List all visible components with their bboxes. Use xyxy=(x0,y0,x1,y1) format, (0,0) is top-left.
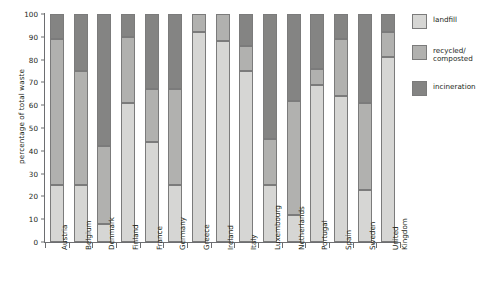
y-axis-tick: 10 xyxy=(29,215,45,224)
bar-segment-incineration xyxy=(263,14,277,139)
x-axis-tick xyxy=(282,243,283,248)
x-axis-tick xyxy=(116,243,117,248)
bar-segment-recycled-composted xyxy=(145,89,159,141)
y-axis-tick-mark xyxy=(41,196,45,197)
y-axis-tick-mark xyxy=(41,150,45,151)
legend-item-recycled[interactable]: recycled/ composted xyxy=(412,45,473,64)
x-axis-tick xyxy=(45,243,46,248)
x-axis-label-austria: Austria xyxy=(61,170,70,250)
x-axis-label-united-kingdom: United Kingdom xyxy=(392,170,409,250)
bar-segment-incineration xyxy=(74,14,88,71)
bar-segment-recycled-composted xyxy=(192,14,206,32)
y-axis-tick: 0 xyxy=(33,238,45,247)
x-axis-tick xyxy=(140,243,141,248)
y-axis-tick-label: 100 xyxy=(24,10,38,19)
y-axis-tick: 30 xyxy=(29,169,45,178)
y-axis-tick: 90 xyxy=(29,32,45,41)
x-axis-label-finland: Finland xyxy=(132,170,141,250)
legend-label-landfill: landfill xyxy=(433,14,457,24)
bar-segment-incineration xyxy=(50,14,64,39)
x-axis-tick xyxy=(376,243,377,248)
y-axis-tick-mark xyxy=(41,173,45,174)
legend-item-incin[interactable]: incineration xyxy=(412,81,476,96)
y-axis-tick: 60 xyxy=(29,101,45,110)
y-axis-tick: 20 xyxy=(29,192,45,201)
y-axis-tick-label: 10 xyxy=(29,215,38,224)
bar-segment-incineration xyxy=(145,14,159,89)
legend-swatch-incin xyxy=(412,81,427,96)
legend-swatch-recycled xyxy=(412,45,427,60)
x-axis-label-greece: Greece xyxy=(203,170,212,250)
x-axis-tick xyxy=(211,243,212,248)
y-axis-tick-label: 60 xyxy=(29,101,38,110)
y-axis-tick-label: 50 xyxy=(29,124,38,133)
y-axis-tick-label: 40 xyxy=(29,146,38,155)
y-axis-tick-mark xyxy=(41,36,45,37)
bar-segment-recycled-composted xyxy=(50,39,64,185)
bar-segment-recycled-composted xyxy=(334,39,348,96)
y-axis-tick-label: 30 xyxy=(29,169,38,178)
x-axis-tick xyxy=(163,243,164,248)
x-axis-tick xyxy=(69,243,70,248)
bar-segment-recycled-composted xyxy=(216,14,230,41)
y-axis-tick-label: 90 xyxy=(29,32,38,41)
bar-segment-recycled-composted xyxy=(74,71,88,185)
x-axis-tick xyxy=(353,243,354,248)
x-axis-label-italy: Italy xyxy=(250,170,259,250)
x-axis-label-ireland: Ireland xyxy=(227,170,236,250)
y-axis-tick-mark xyxy=(41,59,45,60)
x-axis-tick xyxy=(400,243,401,248)
bar-segment-incineration xyxy=(358,14,372,103)
x-axis-tick xyxy=(187,243,188,248)
x-axis-label-netherlands: Netherlands xyxy=(298,170,307,250)
y-axis-tick-mark xyxy=(41,105,45,106)
bar-segment-incineration xyxy=(287,14,301,101)
bar-segment-recycled-composted xyxy=(121,37,135,103)
x-axis-label-denmark: Denmark xyxy=(108,170,117,250)
bar-segment-incineration xyxy=(97,14,111,146)
y-axis-tick-label: 20 xyxy=(29,192,38,201)
x-axis-label-sweden: Sweden xyxy=(369,170,378,250)
legend-label-recycled: recycled/ composted xyxy=(433,45,473,64)
legend-label-incin: incineration xyxy=(433,81,476,91)
y-axis-tick: 70 xyxy=(29,78,45,87)
x-axis-label-spain: Spain xyxy=(345,170,354,250)
legend-item-landfill[interactable]: landfill xyxy=(412,14,457,29)
x-axis-tick xyxy=(258,243,259,248)
waste-treatment-chart: percentage of total waste 01020304050607… xyxy=(0,0,493,306)
x-axis-label-belgium: Belgium xyxy=(85,170,94,250)
y-axis-tick-label: 70 xyxy=(29,78,38,87)
x-axis-tick xyxy=(305,243,306,248)
y-axis-tick: 80 xyxy=(29,55,45,64)
y-axis-tick: 40 xyxy=(29,146,45,155)
bar-segment-incineration xyxy=(121,14,135,37)
y-axis-tick: 100 xyxy=(24,10,45,19)
y-axis-tick-mark xyxy=(41,219,45,220)
y-axis-tick-mark xyxy=(41,14,45,15)
x-axis-tick xyxy=(92,243,93,248)
bar-segment-incineration xyxy=(168,14,182,89)
bar-segment-incineration xyxy=(239,14,253,46)
x-axis-label-germany: Germany xyxy=(179,170,188,250)
y-axis-tick-label: 0 xyxy=(33,238,38,247)
y-axis-tick-mark xyxy=(41,82,45,83)
x-axis-tick xyxy=(234,243,235,248)
y-axis-tick: 50 xyxy=(29,124,45,133)
bar-segment-recycled-composted xyxy=(381,32,395,57)
bar-segment-recycled-composted xyxy=(239,46,253,71)
x-axis-label-france: France xyxy=(156,170,165,250)
y-axis-title: percentage of total waste xyxy=(17,42,26,192)
y-axis-tick-label: 80 xyxy=(29,55,38,64)
bar-segment-incineration xyxy=(381,14,395,32)
x-axis-label-luxembourg: Luxembourg xyxy=(274,170,283,250)
y-axis-tick-mark xyxy=(41,128,45,129)
bar-segment-incineration xyxy=(310,14,324,69)
legend-swatch-landfill xyxy=(412,14,427,29)
bar-segment-incineration xyxy=(334,14,348,39)
bar-segment-recycled-composted xyxy=(310,69,324,85)
x-axis-tick xyxy=(329,243,330,248)
x-axis-label-portugal: Portugal xyxy=(321,170,330,250)
